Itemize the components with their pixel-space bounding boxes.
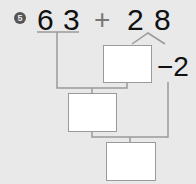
answer-box-2[interactable] — [68, 93, 117, 132]
digit-8: 8 — [154, 5, 171, 35]
problem-number-badge: 5 — [14, 12, 26, 24]
plus-sign: + — [94, 5, 110, 35]
digit-3: 3 — [63, 5, 80, 35]
answer-box-1[interactable] — [103, 45, 152, 83]
answer-box-3[interactable] — [106, 142, 156, 181]
minus-two-label: −2 — [157, 53, 189, 81]
digit-6: 6 — [37, 5, 54, 35]
digit-2: 2 — [127, 5, 144, 35]
